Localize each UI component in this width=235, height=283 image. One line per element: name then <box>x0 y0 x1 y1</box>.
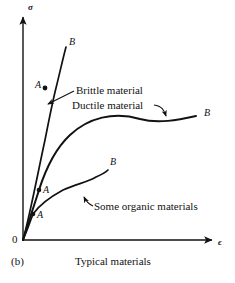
figure-caption-label: (b) <box>11 256 24 267</box>
marker-organic-point-a <box>31 212 36 217</box>
leader-line-ductile <box>154 105 166 116</box>
leader-line-brittle <box>48 91 74 104</box>
plot-canvas <box>0 0 235 283</box>
marker-brittle-point-a <box>43 86 48 91</box>
label-brittle-point-b: B <box>69 37 75 47</box>
y-axis-symbol: σ <box>28 3 33 12</box>
figure-caption-text: Typical materials <box>75 256 151 267</box>
leader-line-organic <box>84 197 93 206</box>
label-ductile-point-a: A <box>43 185 49 195</box>
curve-ductile-material <box>23 116 196 240</box>
label-organic-point-a: A <box>37 210 43 220</box>
label-ductile-point-b: B <box>204 108 210 118</box>
label-brittle-point-a: A <box>35 80 41 90</box>
stress-strain-figure: σ ϵ 0 A B A B A B Brittle material Ducti… <box>0 0 235 283</box>
annotation-organic-materials: Some organic materials <box>94 201 198 212</box>
origin-label: 0 <box>12 234 18 245</box>
x-axis-symbol: ϵ <box>218 238 222 247</box>
annotation-brittle-material: Brittle material <box>76 85 143 96</box>
label-organic-point-b: B <box>110 157 116 167</box>
curve-brittle-material <box>23 47 66 240</box>
marker-ductile-point-a <box>37 188 42 193</box>
annotation-ductile-material: Ductile material <box>72 100 143 111</box>
